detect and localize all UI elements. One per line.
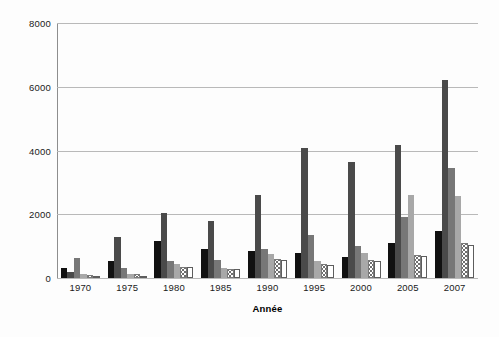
y-axis-tick-labels: 02000400060008000: [0, 23, 51, 278]
y-axis-tick-label: 2000: [29, 209, 51, 220]
x-axis-tick-label: 1985: [197, 282, 244, 293]
bar-group-1990: [244, 23, 291, 278]
x-axis-tick-label: 1995: [291, 282, 338, 293]
bar-series-6-2000: [374, 261, 381, 278]
y-axis-tick-label: 0: [46, 273, 51, 284]
bar-group-2007: [431, 23, 478, 278]
bar-group-1970: [57, 23, 104, 278]
x-axis-tick-label: 1980: [151, 282, 198, 293]
y-axis-tick-label: 6000: [29, 81, 51, 92]
bar-series-6-1985: [234, 269, 241, 278]
bar-series-6-1975: [140, 276, 147, 278]
x-axis-tick-label: 1990: [244, 282, 291, 293]
y-axis-tick-label: 8000: [29, 18, 51, 29]
bar-chart: 02000400060008000 1970197519801985199019…: [0, 0, 499, 337]
x-axis-tick-label: 2005: [384, 282, 431, 293]
x-axis-tick-labels: 197019751980198519901995200020052007: [57, 282, 478, 293]
bar-group-1995: [291, 23, 338, 278]
bar-series-6-2007: [468, 245, 475, 278]
bar-group-1975: [104, 23, 151, 278]
x-axis-tick-label: 1970: [57, 282, 104, 293]
bar-group-2005: [384, 23, 431, 278]
y-axis-tick-label: 4000: [29, 145, 51, 156]
x-axis-label: Année: [57, 303, 478, 314]
bar-series-6-1970: [93, 276, 100, 278]
bar-group-1985: [197, 23, 244, 278]
bar-series-6-2005: [421, 256, 428, 278]
bar-series-6-1980: [187, 267, 194, 278]
bar-group-2000: [338, 23, 385, 278]
grid-line: [57, 278, 478, 279]
bar-series-6-1995: [327, 265, 334, 278]
bar-groups: [57, 23, 478, 278]
x-axis-tick-label: 1975: [104, 282, 151, 293]
bar-series-6-1990: [281, 260, 288, 278]
x-axis-tick-label: 2007: [431, 282, 478, 293]
x-axis-tick-label: 2000: [338, 282, 385, 293]
bar-group-1980: [151, 23, 198, 278]
